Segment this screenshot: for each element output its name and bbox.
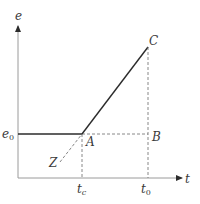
t0-label: t0 [141, 182, 151, 197]
za-dashed-segment [60, 134, 82, 162]
y-axis-label: e [15, 9, 22, 23]
point-c-label: C [149, 34, 158, 48]
point-a-label: A [85, 135, 95, 149]
tc-label: tc [77, 182, 87, 197]
e0-label: e0 [2, 127, 14, 142]
diagram-canvas: e t e0 tc t0 A B C Z [0, 0, 200, 204]
point-b-label: B [151, 130, 161, 144]
x-axis-label: t [185, 172, 190, 186]
ac-solid-segment [82, 47, 148, 134]
point-z-label: Z [48, 156, 58, 170]
